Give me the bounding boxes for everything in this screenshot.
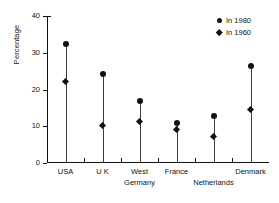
y-axis-top-cap (47, 16, 51, 17)
y-tick-label: 10 (32, 121, 40, 130)
data-point (137, 98, 143, 104)
circle-marker-icon (214, 18, 224, 23)
data-point (100, 71, 106, 77)
y-axis-title: Percentage (12, 9, 21, 81)
x-axis-label: West (131, 167, 148, 176)
y-tick: 0 (43, 163, 47, 164)
data-stem (103, 74, 104, 163)
x-tick (121, 158, 122, 163)
x-tick (195, 158, 196, 163)
data-point (63, 41, 69, 47)
data-point (99, 122, 106, 129)
data-stem (66, 44, 67, 163)
y-tick-label: 20 (32, 85, 40, 94)
y-tick: 20 (43, 90, 47, 91)
plot-area: 010203040 (47, 16, 269, 163)
data-stem (251, 66, 252, 163)
x-axis-label: U K (96, 167, 109, 176)
y-axis-line (47, 16, 48, 163)
y-tick: 10 (43, 126, 47, 127)
y-tick-label: 30 (32, 48, 40, 57)
x-axis-label: France (165, 167, 188, 176)
x-tick (232, 158, 233, 163)
x-axis-label: Netherlands (193, 178, 233, 187)
legend-item: In 1960 (214, 26, 251, 38)
x-tick (84, 158, 85, 163)
diamond-marker-icon (214, 30, 224, 35)
y-tick-label: 0 (36, 158, 40, 167)
legend-item: In 1980 (214, 14, 251, 26)
data-point (247, 106, 254, 113)
legend-label: In 1980 (226, 16, 251, 25)
x-axis-label: USA (58, 167, 73, 176)
data-point (211, 113, 217, 119)
data-point (248, 63, 254, 69)
y-tick-label: 40 (32, 11, 40, 20)
legend-label: In 1960 (226, 28, 251, 37)
chart-container: Percentage 010203040 USAU KWestGermanyFr… (0, 0, 279, 203)
y-tick: 40 (43, 16, 47, 17)
data-point (173, 126, 180, 133)
data-point (62, 78, 69, 85)
y-tick: 30 (43, 53, 47, 54)
data-stem (140, 101, 141, 163)
data-point (136, 118, 143, 125)
x-axis-label: Germany (124, 178, 155, 187)
x-axis-label: Denmark (235, 167, 265, 176)
data-point (210, 133, 217, 140)
x-tick (158, 158, 159, 163)
legend: In 1980In 1960 (214, 14, 251, 38)
